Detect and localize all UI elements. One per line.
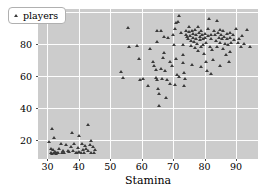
data-point bbox=[210, 48, 214, 51]
x-tick-label: 30 bbox=[41, 161, 53, 172]
data-point bbox=[206, 27, 210, 30]
data-point bbox=[163, 69, 167, 72]
data-point bbox=[157, 92, 161, 95]
data-point bbox=[52, 136, 56, 139]
data-point bbox=[76, 146, 80, 149]
data-point bbox=[237, 37, 241, 40]
data-point bbox=[137, 57, 141, 60]
data-point bbox=[176, 20, 180, 23]
data-point bbox=[196, 25, 200, 28]
gridline-horizontal bbox=[38, 140, 258, 141]
data-point bbox=[154, 68, 158, 71]
gridline-horizontal bbox=[38, 108, 258, 109]
data-point bbox=[242, 42, 246, 45]
y-tick-mark bbox=[36, 140, 38, 141]
y-tick-label: 60 bbox=[20, 71, 32, 82]
data-point bbox=[174, 57, 178, 60]
scatter-chart-figure: 30405060708090 20406080100 Stamina Dribb… bbox=[0, 0, 270, 196]
data-point bbox=[82, 151, 86, 154]
data-point bbox=[221, 47, 225, 50]
data-point bbox=[166, 36, 170, 39]
data-point bbox=[47, 140, 51, 143]
legend[interactable]: players bbox=[8, 7, 66, 24]
data-point bbox=[215, 19, 219, 22]
data-point bbox=[177, 75, 181, 78]
data-point bbox=[162, 51, 166, 54]
data-point bbox=[151, 60, 155, 63]
data-point bbox=[141, 77, 145, 80]
x-tick-label: 50 bbox=[104, 161, 116, 172]
data-point bbox=[171, 33, 175, 36]
x-tick-label: 90 bbox=[230, 161, 242, 172]
data-point bbox=[227, 60, 231, 63]
data-point bbox=[86, 123, 90, 126]
data-point bbox=[50, 127, 54, 130]
data-point bbox=[126, 26, 130, 29]
plot-area bbox=[38, 9, 258, 159]
data-point bbox=[228, 50, 232, 53]
data-point bbox=[183, 77, 187, 80]
data-point bbox=[204, 41, 208, 44]
data-point bbox=[119, 70, 123, 73]
data-point bbox=[224, 53, 228, 56]
gridline-horizontal bbox=[38, 12, 258, 13]
data-point bbox=[218, 64, 222, 67]
data-point bbox=[92, 151, 96, 154]
x-tick-label: 80 bbox=[199, 161, 211, 172]
data-point bbox=[181, 53, 185, 56]
data-point bbox=[234, 27, 238, 30]
data-point bbox=[155, 40, 159, 43]
data-point bbox=[170, 64, 174, 67]
gridline-horizontal bbox=[38, 76, 258, 77]
x-tick-label: 70 bbox=[167, 161, 179, 172]
data-point bbox=[248, 45, 252, 48]
data-point bbox=[245, 28, 249, 31]
y-tick-label: 80 bbox=[20, 39, 32, 50]
x-tick-label: 40 bbox=[73, 161, 85, 172]
data-point bbox=[168, 82, 172, 85]
gridline-vertical bbox=[110, 9, 111, 159]
data-point bbox=[159, 29, 163, 32]
data-point bbox=[240, 34, 244, 37]
data-point bbox=[181, 43, 185, 46]
data-point bbox=[156, 87, 160, 90]
data-point bbox=[173, 27, 177, 30]
data-point bbox=[160, 77, 164, 80]
data-point bbox=[157, 104, 161, 107]
y-tick-label: 20 bbox=[20, 134, 32, 145]
data-point bbox=[168, 60, 172, 63]
data-point bbox=[199, 65, 203, 68]
data-point bbox=[64, 143, 68, 146]
data-point bbox=[218, 41, 222, 44]
y-tick-mark bbox=[36, 76, 38, 77]
data-point bbox=[196, 49, 200, 52]
data-point bbox=[148, 47, 152, 50]
data-point bbox=[59, 142, 63, 145]
legend-entry-label: players bbox=[23, 10, 58, 21]
data-point bbox=[173, 83, 177, 86]
data-point bbox=[182, 71, 186, 74]
data-point bbox=[172, 43, 176, 46]
data-point bbox=[164, 96, 168, 99]
data-point bbox=[89, 139, 93, 142]
data-point bbox=[70, 131, 74, 134]
data-point bbox=[152, 64, 156, 67]
data-point bbox=[121, 76, 125, 79]
data-point bbox=[231, 33, 235, 36]
data-point bbox=[211, 58, 215, 61]
legend-marker-triangle-icon bbox=[14, 14, 18, 17]
data-point bbox=[162, 35, 166, 38]
data-point bbox=[165, 78, 169, 81]
data-point bbox=[135, 44, 139, 47]
data-point bbox=[72, 142, 76, 145]
data-point bbox=[215, 45, 219, 48]
gridline-vertical bbox=[236, 9, 237, 159]
data-point bbox=[181, 61, 185, 64]
data-point bbox=[179, 31, 183, 34]
data-point bbox=[161, 56, 165, 59]
data-point bbox=[202, 52, 206, 55]
x-tick-label: 60 bbox=[136, 161, 148, 172]
gridline-vertical bbox=[142, 9, 143, 159]
x-axis-label: Stamina bbox=[38, 174, 258, 187]
data-point bbox=[155, 78, 159, 81]
